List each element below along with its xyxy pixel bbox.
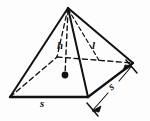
hidden-base-edge-back-right — [57, 57, 133, 63]
visible-lateral-edges — [10, 8, 133, 97]
base-center-dot — [62, 72, 69, 79]
label-base-edge-front: s — [40, 98, 44, 109]
slant-height-line-l — [68, 9, 100, 62]
lateral-edge-apex-left — [10, 8, 68, 97]
pyramid-drawing — [0, 0, 150, 121]
label-slant-height: l — [92, 40, 95, 51]
label-height: h — [57, 40, 63, 51]
pyramid-figure: s s h l — [0, 0, 150, 121]
hidden-base-edge-left-back — [10, 57, 57, 97]
